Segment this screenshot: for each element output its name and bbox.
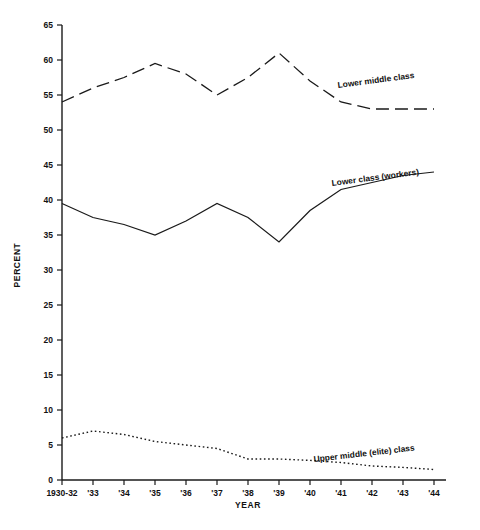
y-tick-label: 30 [44,265,54,275]
y-tick-label: 10 [44,405,54,415]
x-tick-label: '34 [118,488,130,498]
x-tick-label: '42 [366,488,378,498]
y-tick-label: 15 [44,370,54,380]
x-tick-label: '40 [304,488,316,498]
y-tick-label: 5 [48,440,53,450]
series-label: Lower middle class [337,70,415,90]
series-label: Upper middle (elite) class [313,443,415,464]
series-annotations: Lower middle classLower class (workers)U… [313,70,420,464]
y-tick-label: 0 [48,475,53,485]
y-tick-label: 65 [44,20,54,30]
x-tick-label: '38 [242,488,254,498]
y-tick-label: 50 [44,125,54,135]
y-tick-label: 45 [44,160,54,170]
y-tick-label: 40 [44,195,54,205]
y-tick-label: 60 [44,55,54,65]
series-label: Lower class (workers) [331,167,420,188]
x-tick-label: '39 [273,488,285,498]
x-tick-label: '44 [428,488,440,498]
y-axis-ticks: 05101520253035404550556065 [44,20,62,485]
line-chart: 05101520253035404550556065 1930-32'33'34… [0,0,480,530]
x-tick-label: '35 [149,488,161,498]
chart-container: 05101520253035404550556065 1930-32'33'34… [0,0,480,530]
x-tick-label: '37 [211,488,223,498]
y-tick-label: 55 [44,90,54,100]
series-line [62,172,434,242]
y-axis-title: PERCENT [12,242,22,287]
series-group [62,53,434,470]
x-tick-label: 1930-32 [46,488,77,498]
y-tick-label: 25 [44,300,54,310]
y-tick-label: 35 [44,230,54,240]
x-tick-label: '41 [335,488,347,498]
x-tick-label: '33 [87,488,99,498]
x-axis-title: YEAR [235,500,261,510]
x-axis-ticks: 1930-32'33'34'35'36'37'38'39'40'41'42'43… [46,480,440,498]
x-tick-label: '43 [397,488,409,498]
y-tick-label: 20 [44,335,54,345]
x-tick-label: '36 [180,488,192,498]
